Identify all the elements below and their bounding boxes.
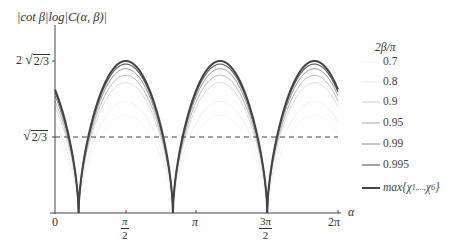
y-tick-label-mid: √2/3 [23,129,48,144]
legend-item-0.8: 0.8 [383,75,397,87]
curve-group [55,61,338,213]
x-axis-title: α [348,205,354,220]
legend-item-0.95: 0.95 [383,116,403,128]
legend-label: 0.9 [383,95,397,107]
sqrt-symbol: √2/3 [23,129,48,143]
legend-label: 0.7 [383,55,397,67]
legend-item-max: max{χ1,...,χ6} [383,181,440,193]
y-tick-top-prefix: 2 [16,53,22,67]
sqrt-symbol: √2/3 [25,53,50,67]
legend-item-0.9: 0.9 [383,95,397,107]
x-tick-label-3half-pi: 3π 2 [259,216,272,241]
legend-item-0.7: 0.7 [383,55,397,67]
legend-label: 0.95 [383,116,403,128]
legend-item-0.995: 0.995 [383,158,409,170]
frac-num: 3π [259,216,272,229]
y-tick-top-radicand: 2/3 [33,54,50,67]
legend-label: 0.995 [383,158,409,170]
x-tick-label-0: 0 [52,215,58,230]
legend-title: 2β/π [375,41,395,53]
frac-den: 2 [263,229,269,241]
legend-swatches [362,62,380,188]
legend-max-label: max{χ [383,181,412,193]
legend-max-sub1: 1,..., [412,183,426,192]
x-tick-label-pi: π [192,215,198,230]
legend-label: 0.99 [383,137,403,149]
y-tick-label-top: 2 √2/3 [16,53,50,68]
curve-0.7 [55,115,338,213]
x-tick-label-half-pi: π 2 [121,216,129,241]
y-axis-title: |cot β|log|C(α, β)| [17,10,107,25]
legend-item-0.99: 0.99 [383,137,403,149]
frac-num: π [121,216,129,229]
y-axis-title-text: |cot β|log|C(α, β)| [17,10,107,24]
legend-label: 0.8 [383,75,397,87]
y-tick-mid-radicand: 2/3 [31,130,48,143]
curve-max{χ1,...,χ6} [55,61,338,213]
x-tick-label-2pi: 2π [328,215,340,230]
legend-max-close: } [435,181,440,193]
frac-den: 2 [122,229,128,241]
